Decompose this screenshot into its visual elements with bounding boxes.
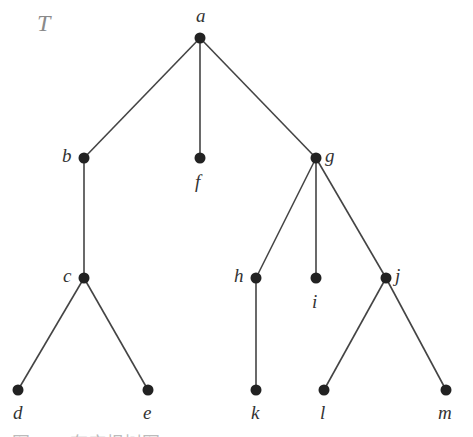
node-e [143, 385, 154, 396]
node-c [79, 273, 90, 284]
edge-c-d [18, 278, 84, 390]
edge-a-b [84, 38, 200, 158]
node-label-a: a [196, 6, 206, 25]
node-label-c: c [63, 266, 71, 285]
tree-nodes [13, 33, 452, 396]
node-j [381, 273, 392, 284]
tree-edges [18, 38, 446, 390]
node-label-i: i [312, 292, 317, 311]
node-label-e: e [143, 403, 151, 422]
edge-j-l [324, 278, 386, 390]
node-f [195, 153, 206, 164]
node-m [441, 385, 452, 396]
edge-a-g [200, 38, 316, 158]
node-a [195, 33, 206, 44]
node-i [311, 273, 322, 284]
node-d [13, 385, 24, 396]
edge-j-m [386, 278, 446, 390]
node-label-l: l [320, 403, 325, 422]
edge-g-h [256, 158, 316, 278]
node-k [251, 385, 262, 396]
node-label-f: f [195, 172, 200, 191]
tree-canvas [0, 0, 473, 437]
node-h [251, 273, 262, 284]
node-label-m: m [438, 403, 452, 422]
node-g [311, 153, 322, 164]
node-label-j: j [395, 266, 400, 285]
edge-c-e [84, 278, 148, 390]
node-label-k: k [251, 403, 259, 422]
node-label-d: d [13, 403, 23, 422]
node-b [79, 153, 90, 164]
figure-caption: 图 · · · 有序根树图 T [12, 429, 177, 437]
node-label-h: h [234, 266, 244, 285]
edge-g-j [316, 158, 386, 278]
node-l [319, 385, 330, 396]
tree-title: T [37, 10, 50, 37]
node-label-b: b [62, 146, 72, 165]
node-label-g: g [325, 146, 335, 165]
